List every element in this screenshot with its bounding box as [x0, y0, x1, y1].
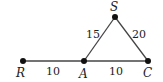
label-point-s: S [110, 0, 118, 14]
label-point-a: A [78, 67, 88, 81]
length-sc: 20 [132, 28, 146, 41]
length-as: 15 [86, 28, 100, 41]
point-a [81, 58, 87, 64]
geometry-diagram: R A C S 10 10 15 20 [0, 0, 163, 82]
point-s [112, 14, 118, 20]
point-c [145, 58, 151, 64]
length-ra: 10 [46, 65, 60, 78]
label-point-r: R [15, 66, 25, 80]
point-r [20, 58, 26, 64]
label-point-c: C [143, 66, 152, 80]
length-ac: 10 [109, 65, 123, 78]
